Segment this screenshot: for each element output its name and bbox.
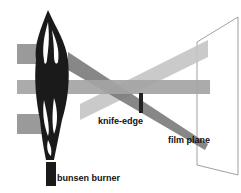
burner-icon: [46, 162, 56, 186]
bunsen-burner-label: bunsen burner: [57, 173, 120, 183]
knife-edge-icon: [139, 93, 143, 113]
schlieren-diagram: knife-edge film plane bunsen burner: [0, 0, 241, 193]
flame-icon: [35, 10, 69, 160]
diagram-graphic: [0, 0, 241, 193]
knife-edge-label: knife-edge: [98, 116, 143, 126]
film-plane-label: film plane: [168, 135, 210, 145]
film-plane: [197, 17, 238, 175]
